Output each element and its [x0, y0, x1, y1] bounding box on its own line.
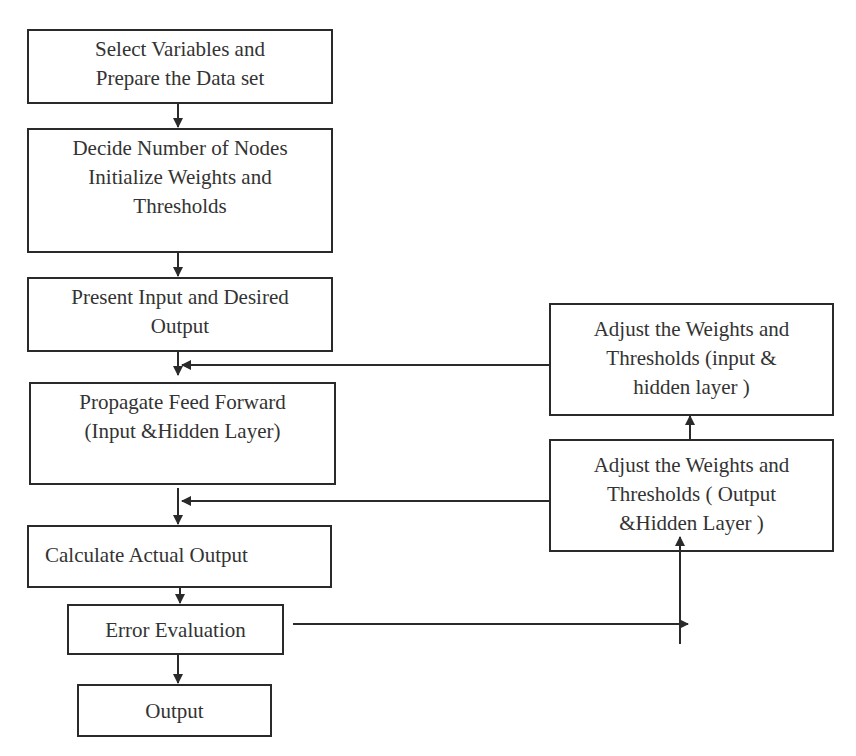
step-text-line: Output — [29, 312, 331, 341]
step-text-line: &Hidden Layer ) — [551, 509, 832, 538]
step-error-evaluation: Error Evaluation — [67, 604, 284, 655]
step-adjust-output-hidden: Adjust the Weights and Thresholds ( Outp… — [549, 439, 834, 552]
step-present-input: Present Input and Desired Output — [27, 277, 333, 352]
step-calculate-output: Calculate Actual Output — [27, 525, 332, 588]
step-decide-nodes: Decide Number of Nodes Initialize Weight… — [27, 128, 333, 253]
step-text-line: Calculate Actual Output — [45, 541, 330, 570]
step-text-line: Prepare the Data set — [29, 64, 331, 93]
step-text-line: (Input &Hidden Layer) — [31, 417, 334, 446]
step-text-line: Present Input and Desired — [29, 283, 331, 312]
step-text-line: Error Evaluation — [69, 616, 282, 645]
step-text-line: Adjust the Weights and — [551, 315, 832, 344]
step-text-line: Select Variables and — [29, 35, 331, 64]
step-text-line: Propagate Feed Forward — [31, 388, 334, 417]
step-output: Output — [77, 684, 272, 737]
step-text-line: Thresholds (input & — [551, 344, 832, 373]
step-text-line: Initialize Weights and — [29, 163, 331, 192]
step-text-line: hidden layer ) — [551, 373, 832, 402]
flowchart-canvas: Select Variables and Prepare the Data se… — [0, 0, 856, 756]
step-text-line: Thresholds ( Output — [551, 480, 832, 509]
step-propagate-feed-forward: Propagate Feed Forward (Input &Hidden La… — [29, 382, 336, 485]
step-adjust-input-hidden: Adjust the Weights and Thresholds (input… — [549, 303, 834, 416]
step-text-line: Thresholds — [29, 192, 331, 221]
step-text-line: Decide Number of Nodes — [29, 134, 331, 163]
step-select-variables: Select Variables and Prepare the Data se… — [27, 29, 333, 104]
step-text-line: Output — [79, 697, 270, 726]
step-text-line: Adjust the Weights and — [551, 451, 832, 480]
